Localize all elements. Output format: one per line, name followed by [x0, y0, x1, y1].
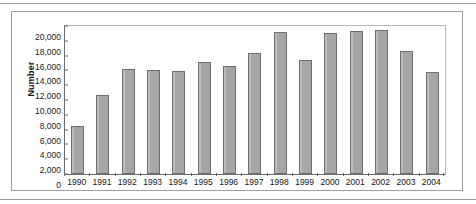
bar-slot: [141, 26, 166, 174]
bar-chart: Number 20,00018,00016,00014,00012,00010,…: [12, 12, 464, 192]
x-axis-tick-mark: [368, 173, 369, 176]
x-axis-tick-label: 1990: [64, 177, 89, 187]
x-axis-tick-label: 2001: [343, 177, 368, 187]
figure-frame: Number 20,00018,00016,00014,00012,00010,…: [11, 11, 463, 191]
x-axis-tick-mark: [64, 173, 65, 176]
bar-slot: [318, 26, 343, 174]
x-axis-tick-label: 1999: [292, 177, 317, 187]
x-axis-tick-label: 1995: [191, 177, 216, 187]
x-axis-tick-label: 1993: [140, 177, 165, 187]
x-axis-tick-mark: [419, 173, 420, 176]
bar: [122, 69, 135, 174]
x-axis-tick-label: 2000: [317, 177, 342, 187]
x-axis-labels: 1990199119921993199419951996199719981999…: [64, 177, 444, 187]
bar-slot: [65, 26, 90, 174]
x-axis-tick-mark: [140, 173, 141, 176]
bar-slot: [217, 26, 242, 174]
bar: [147, 70, 160, 174]
x-axis-tick-mark: [241, 173, 242, 176]
x-axis-tick-mark: [191, 173, 192, 176]
bar: [198, 62, 211, 174]
bar: [350, 31, 363, 174]
bar-series: [65, 26, 445, 174]
plot-area: 20,00018,00016,00014,00012,00010,0008,00…: [64, 25, 446, 175]
bar-slot: [369, 26, 394, 174]
bar: [299, 60, 312, 174]
bar: [274, 32, 287, 174]
bar-slot: [242, 26, 267, 174]
x-axis-tick-mark: [443, 173, 444, 176]
x-axis-tick-label: 1992: [115, 177, 140, 187]
x-axis-tick-label: 1994: [165, 177, 190, 187]
bar-slot: [192, 26, 217, 174]
x-axis-tick-mark: [317, 173, 318, 176]
x-axis-tick-mark: [343, 173, 344, 176]
bar: [375, 30, 388, 174]
x-axis-tick-mark: [267, 173, 268, 176]
x-axis-tick-mark: [115, 173, 116, 176]
bar-slot: [166, 26, 191, 174]
x-axis-tick-label: 2004: [419, 177, 444, 187]
bar-slot: [344, 26, 369, 174]
x-axis-tick-label: 2002: [368, 177, 393, 187]
x-axis-tick-mark: [216, 173, 217, 176]
x-axis-tick-mark: [89, 173, 90, 176]
bar-slot: [268, 26, 293, 174]
bar: [223, 66, 236, 174]
bar: [96, 95, 109, 174]
bar-slot: [394, 26, 419, 174]
bar: [71, 126, 84, 174]
figure-root: Number 20,00018,00016,00014,00012,00010,…: [0, 0, 476, 204]
x-axis-tick-mark: [165, 173, 166, 176]
x-axis-tick-label: 1991: [89, 177, 114, 187]
x-axis-tick-mark: [292, 173, 293, 176]
x-axis-tick-mark: [393, 173, 394, 176]
x-axis-tick-label: 1996: [216, 177, 241, 187]
bar: [324, 33, 337, 174]
bar: [248, 53, 261, 174]
x-axis-tick-label: 1998: [267, 177, 292, 187]
bar-slot: [420, 26, 445, 174]
x-axis-tick-label: 1997: [241, 177, 266, 187]
bar: [426, 72, 439, 174]
bar-slot: [293, 26, 318, 174]
bar-slot: [116, 26, 141, 174]
bar-slot: [90, 26, 115, 174]
page-rule-top: [0, 3, 476, 4]
bar: [172, 71, 185, 174]
page-rule-bottom: [0, 199, 476, 200]
x-axis-tick-label: 2003: [393, 177, 418, 187]
bar: [400, 51, 413, 174]
